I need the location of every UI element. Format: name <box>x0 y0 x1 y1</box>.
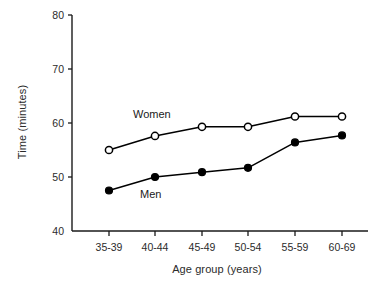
chart-figure: Time (minutes) Age group (years) 80 70 6… <box>0 0 384 293</box>
y-tick-label-60: 60 <box>38 117 64 129</box>
y-tick-label-50: 50 <box>38 171 64 183</box>
data-point-men-45-49 <box>199 169 206 176</box>
series-line-women <box>109 117 342 150</box>
x-axis-title: Age group (years) <box>72 263 362 275</box>
data-point-women-50-54 <box>244 123 251 130</box>
data-point-women-40-44 <box>151 132 158 139</box>
data-point-women-35-39 <box>105 146 112 153</box>
data-point-men-55-59 <box>292 139 299 146</box>
series-men <box>106 132 346 194</box>
series-label-men: Men <box>140 188 161 200</box>
data-point-women-45-49 <box>198 123 205 130</box>
x-tick-label-55-59: 55-59 <box>268 241 322 253</box>
x-tick-label-60-69: 60-69 <box>315 241 369 253</box>
axes-group <box>68 15 368 236</box>
y-tick-label-70: 70 <box>38 63 64 75</box>
y-tick-label-80: 80 <box>38 9 64 21</box>
y-axis-title: Time (minutes) <box>16 52 28 192</box>
x-tick-label-50-54: 50-54 <box>221 241 275 253</box>
series-label-women: Women <box>133 108 171 120</box>
data-point-women-55-59 <box>291 113 298 120</box>
data-point-men-50-54 <box>245 164 252 171</box>
x-tick-label-40-44: 40-44 <box>128 241 182 253</box>
data-point-men-40-44 <box>152 174 159 181</box>
y-tick-label-40: 40 <box>38 225 64 237</box>
data-series-group <box>105 113 345 194</box>
data-point-men-35-39 <box>106 187 113 194</box>
series-line-men <box>109 135 342 190</box>
data-point-women-60-69 <box>338 113 345 120</box>
data-point-men-60-69 <box>339 132 346 139</box>
